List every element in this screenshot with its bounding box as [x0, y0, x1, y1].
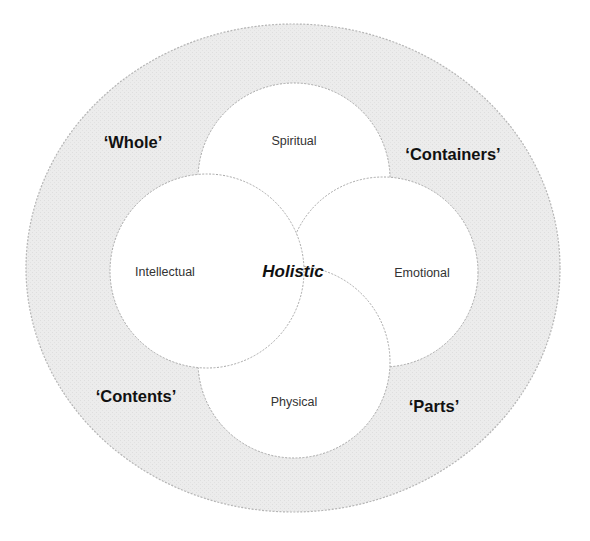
label-spiritual: Spiritual	[271, 134, 316, 148]
label-physical: Physical	[271, 395, 318, 409]
label-whole: ‘Whole’	[104, 133, 163, 152]
label-intellectual: Intellectual	[135, 265, 195, 279]
label-parts: ‘Parts’	[409, 397, 459, 416]
label-emotional: Emotional	[394, 266, 450, 280]
label-holistic: Holistic	[262, 262, 323, 282]
label-containers: ‘Containers’	[405, 145, 500, 164]
label-contents: ‘Contents’	[96, 387, 177, 406]
